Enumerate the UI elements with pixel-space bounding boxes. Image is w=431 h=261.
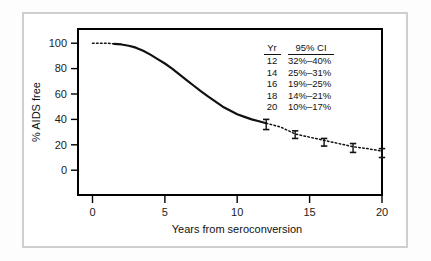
legend-row-yr: 18 xyxy=(267,90,278,101)
y-tick-label: 20 xyxy=(55,139,67,151)
legend-header-ci: 95% CI xyxy=(295,42,326,53)
x-tick-label: 10 xyxy=(231,206,243,218)
legend-ci-table: Yr 95% CI 12 32%–40% 14 25%–31% 16 19%–2… xyxy=(264,42,334,112)
y-tick-label: 80 xyxy=(55,62,67,74)
y-tick-label: 40 xyxy=(55,113,67,125)
legend-row-yr: 20 xyxy=(267,101,278,112)
legend-row-ci: 10%–17% xyxy=(288,101,332,112)
legend-row-yr: 14 xyxy=(267,67,278,78)
legend-row-ci: 25%–31% xyxy=(288,67,332,78)
legend-row-yr: 12 xyxy=(267,55,278,66)
y-tick-label: 60 xyxy=(55,88,67,100)
x-tick-label: 20 xyxy=(376,206,388,218)
y-tick-label: 100 xyxy=(49,37,67,49)
x-tick-label: 5 xyxy=(162,206,168,218)
legend-row-ci: 14%–21% xyxy=(288,90,332,101)
chart-canvas: 100 80 60 40 20 0 % AIDS free 0 5 10 15 … xyxy=(0,0,431,261)
figure-container: 100 80 60 40 20 0 % AIDS free 0 5 10 15 … xyxy=(0,0,431,261)
x-tick-label: 0 xyxy=(89,206,95,218)
y-axis-tick-labels: 100 80 60 40 20 0 xyxy=(49,37,67,176)
x-axis-ticks xyxy=(93,195,383,203)
y-axis-title: % AIDS free xyxy=(30,82,42,142)
plot-frame xyxy=(78,29,382,195)
legend-row-ci: 32%–40% xyxy=(288,55,332,66)
x-tick-label: 15 xyxy=(303,206,315,218)
x-axis-title: Years from seroconversion xyxy=(172,223,302,235)
y-axis-ticks xyxy=(71,43,78,170)
legend-row-ci: 19%–25% xyxy=(288,78,332,89)
legend-header-yr: Yr xyxy=(267,42,277,53)
legend-row-yr: 16 xyxy=(267,78,278,89)
x-axis-tick-labels: 0 5 10 15 20 xyxy=(89,206,388,218)
y-tick-label: 0 xyxy=(61,164,67,176)
